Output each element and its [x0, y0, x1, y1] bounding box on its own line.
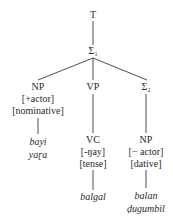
np2-word-1: balan — [135, 190, 158, 202]
np1-feature-actor: [+actor] — [22, 93, 54, 105]
vc-feature-2: [tense] — [79, 158, 106, 170]
np1-feature-case: [nominative] — [12, 105, 64, 117]
edge-sigma1-np — [38, 58, 93, 80]
node-vc: VC — [86, 134, 100, 146]
np2-feature-case: [dative] — [130, 158, 161, 170]
node-t: T — [90, 9, 96, 21]
vc-word: balgal — [80, 191, 106, 203]
node-vp: VP — [87, 81, 100, 93]
vc-feature-1: [-ŋay] — [81, 146, 105, 158]
node-np2: NP — [140, 134, 153, 146]
node-sigma1: Σ1 — [89, 45, 98, 60]
edge-sigma1-sigma2 — [93, 58, 147, 80]
np1-word-2: yaɽa — [29, 149, 47, 161]
node-np1: NP — [32, 81, 45, 93]
sigma2-subscript: 2 — [147, 87, 150, 93]
sigma1-subscript: 1 — [94, 51, 97, 57]
np1-word-1: bayi — [29, 136, 46, 148]
np2-feature-actor: [− actor] — [129, 146, 164, 158]
node-sigma2: Σ2 — [142, 81, 151, 96]
np2-word-2: ḍugumbil — [127, 203, 165, 215]
